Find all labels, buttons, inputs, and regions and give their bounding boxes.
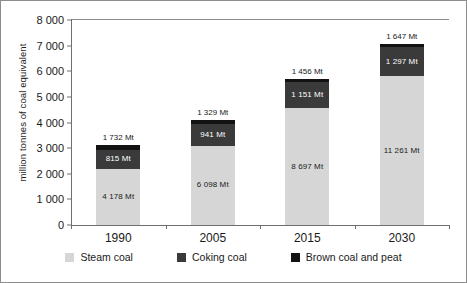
bar-segment-coking[interactable]: 1 151 Mt [285, 82, 329, 108]
x-axis-tick-label: 2015 [294, 231, 321, 245]
y-axis-tick-label: 8 000 [36, 14, 71, 26]
legend-label: Coking coal [192, 251, 247, 263]
bar-segment-steam[interactable]: 6 098 Mt [191, 146, 235, 225]
legend-swatch-icon [177, 253, 186, 262]
bar-segment-value-label: 1 297 Mt [386, 58, 418, 66]
x-axis-tick-label: 1990 [105, 231, 132, 245]
bar-total-label: 1 732 Mt [103, 134, 134, 142]
legend-item[interactable]: Brown coal and peat [291, 251, 402, 263]
x-axis-tick-label: 2030 [388, 231, 415, 245]
bar-segment-steam[interactable]: 8 697 Mt [285, 108, 329, 225]
bar-segment-value-label: 1 151 Mt [291, 91, 323, 99]
y-axis-tick-label: 5 000 [36, 91, 71, 103]
y-axis-tick-label: 2 000 [36, 168, 71, 180]
y-axis-tick-mark [67, 96, 71, 97]
chart-figure: million tonnes of coal equivalent 8 0007… [0, 0, 467, 283]
y-axis-tick-mark [67, 45, 71, 46]
x-axis-tick-mark [71, 225, 72, 229]
bar-stack[interactable]: 1 151 Mt8 697 Mt1 456 Mt [285, 79, 329, 225]
legend-label: Brown coal and peat [306, 251, 402, 263]
bar-segment-value-label: 4 178 Mt [102, 193, 134, 201]
bar-segment-value-label: 941 Mt [200, 131, 225, 139]
bar-segment-steam[interactable]: 4 178 Mt [96, 169, 140, 225]
y-axis-tick-mark [67, 148, 71, 149]
legend-item[interactable]: Steam coal [65, 251, 133, 263]
y-axis-tick-mark [67, 122, 71, 123]
y-axis-tick-mark [67, 71, 71, 72]
x-axis-tick-mark [260, 225, 261, 229]
bar-stack[interactable]: 1 297 Mt11 261 Mt1 647 Mt [380, 44, 424, 225]
y-axis-tick-mark [67, 20, 71, 21]
bar-total-label: 1 647 Mt [386, 33, 417, 41]
y-axis-line [71, 19, 72, 226]
bar-total-label: 1 329 Mt [197, 109, 228, 117]
bar-segment-coking[interactable]: 815 Mt [96, 150, 140, 169]
y-axis-tick-label: 4 000 [36, 117, 71, 129]
x-axis-tick-mark [449, 225, 450, 229]
y-axis-tick-label: 1 000 [36, 193, 71, 205]
x-axis-tick-mark [355, 225, 356, 229]
bar-segment-value-label: 6 098 Mt [197, 181, 229, 189]
legend-label: Steam coal [80, 251, 133, 263]
y-axis-title: million tonnes of coal equivalent [17, 8, 28, 218]
bar-total-label: 1 456 Mt [292, 68, 323, 76]
legend-item[interactable]: Coking coal [177, 251, 247, 263]
bar-stack[interactable]: 941 Mt6 098 Mt1 329 Mt [191, 120, 235, 225]
chart-legend: Steam coalCoking coalBrown coal and peat [1, 251, 466, 263]
plot-area: 8 0007 0006 0005 0004 0003 0002 0001 000… [71, 19, 449, 226]
bar-segment-coking[interactable]: 941 Mt [191, 124, 235, 145]
plot-top-border [71, 19, 449, 20]
y-axis-tick-mark [67, 199, 71, 200]
x-axis-tick-mark [166, 225, 167, 229]
y-axis-tick-label: 7 000 [36, 40, 71, 52]
y-axis-tick-label: 6 000 [36, 65, 71, 77]
bar-stack[interactable]: 815 Mt4 178 Mt1 732 Mt [96, 145, 140, 225]
y-axis-tick-label: 3 000 [36, 142, 71, 154]
bar-segment-value-label: 8 697 Mt [291, 163, 323, 171]
legend-swatch-icon [291, 253, 300, 262]
bar-segment-steam[interactable]: 11 261 Mt [380, 76, 424, 225]
bar-segment-value-label: 11 261 Mt [384, 147, 420, 155]
legend-swatch-icon [65, 253, 74, 262]
y-axis-tick-mark [67, 173, 71, 174]
bar-segment-coking[interactable]: 1 297 Mt [380, 47, 424, 76]
bar-segment-value-label: 815 Mt [106, 155, 131, 163]
x-axis-tick-label: 2005 [199, 231, 226, 245]
